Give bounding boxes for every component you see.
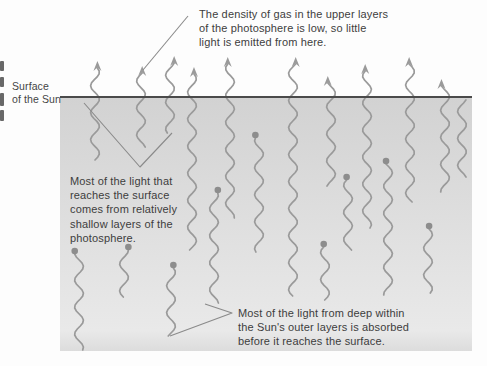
page-edge-artifact (0, 93, 4, 106)
absorption-dot (320, 241, 327, 248)
annotation-line: The density of gas in the upper layers (199, 7, 388, 21)
annotation-line: before it reaches the surface. (238, 334, 409, 348)
annotation-line: photosphere. (70, 231, 177, 245)
page-edge-artifact (0, 77, 4, 87)
annotation-line: Most of the light from deep within (238, 306, 409, 320)
up-arrowhead-icon (324, 76, 332, 86)
absorption-dot (343, 174, 350, 181)
absorption-dot (170, 262, 177, 269)
annotation-line: reaches the surface (70, 188, 177, 202)
absorption-dot (252, 132, 259, 139)
annotation-line: shallow layers of the (70, 217, 177, 231)
page-edge-artifact (0, 110, 4, 121)
up-arrowhead-icon (361, 64, 369, 74)
up-arrowhead-icon (405, 57, 413, 67)
annotation-line: Most of the light that (70, 174, 177, 188)
absorption-dot (215, 187, 222, 194)
absorption-dot (383, 158, 390, 165)
absorption-dot (426, 223, 433, 230)
surface-of-sun-label: Surface of the Sun (12, 80, 61, 106)
leader-line (143, 16, 188, 70)
middle-annotation: Most of the light that reaches the surfa… (70, 174, 177, 245)
surface-label-line: Surface (12, 80, 61, 93)
absorption-dot (71, 248, 78, 255)
page-edge-artifact (0, 61, 4, 71)
bottom-annotation: Most of the light from deep within the S… (238, 306, 409, 349)
annotation-line: comes from relatively (70, 202, 177, 216)
annotation-line: of the photosphere is low, so little (199, 21, 388, 35)
annotation-line: light is emitted from here. (199, 35, 388, 49)
up-arrowhead-icon (437, 79, 445, 89)
surface-label-line: of the Sun (12, 93, 61, 106)
top-annotation: The density of gas in the upper layers o… (199, 7, 388, 50)
up-arrowhead-icon (292, 57, 300, 67)
annotation-line: the Sun's outer layers is absorbed (238, 320, 409, 334)
photosphere-diagram: Surface of the Sun The density of gas in… (0, 0, 487, 366)
